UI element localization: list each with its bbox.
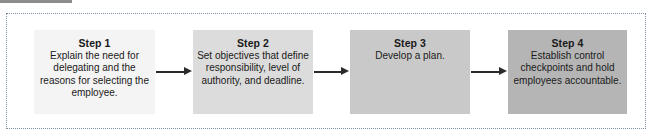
arrow-step1-to-step2-icon <box>156 67 192 76</box>
step-1-title: Step 1 <box>78 37 110 50</box>
scan-artifact-bar <box>0 0 72 3</box>
arrow-shaft <box>471 71 500 73</box>
step-box-4: Step 4 Establish control checkpoints and… <box>508 30 627 114</box>
arrow-head <box>499 67 507 75</box>
step-box-1: Step 1 Explain the need for delegating a… <box>34 30 155 114</box>
step-4-description: Establish control checkpoints and hold e… <box>508 50 627 87</box>
step-1-description: Explain the need for delegating and the … <box>34 50 155 100</box>
step-box-2: Step 2 Set objectives that define respon… <box>193 30 313 114</box>
step-2-description: Set objectives that define responsibilit… <box>193 50 313 87</box>
arrow-head <box>341 67 349 75</box>
step-box-3: Step 3 Develop a plan. <box>350 30 470 114</box>
step-4-title: Step 4 <box>551 37 583 50</box>
step-2-title: Step 2 <box>237 37 269 50</box>
arrow-shaft <box>156 71 185 73</box>
arrow-step3-to-step4-icon <box>471 67 507 76</box>
step-3-description: Develop a plan. <box>371 50 449 62</box>
arrow-shaft <box>314 71 342 73</box>
process-flow-figure: Step 1 Explain the need for delegating a… <box>0 0 654 135</box>
step-3-title: Step 3 <box>394 37 426 50</box>
arrow-head <box>184 67 192 75</box>
arrow-step2-to-step3-icon <box>314 67 349 76</box>
